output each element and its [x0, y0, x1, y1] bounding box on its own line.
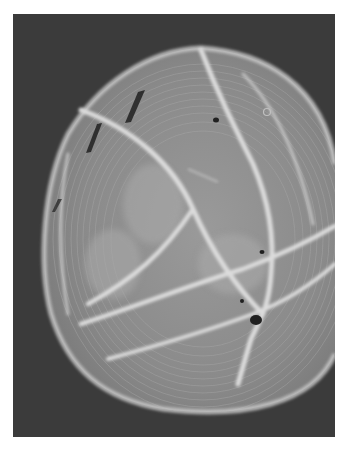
cell-illustration — [13, 14, 335, 437]
cell-disc — [44, 48, 335, 412]
dark-spot-2 — [260, 250, 265, 254]
dark-spot-1 — [213, 118, 219, 123]
microscopy-photo — [13, 14, 335, 437]
dark-hole — [250, 315, 262, 325]
dark-spot-3 — [240, 299, 244, 303]
